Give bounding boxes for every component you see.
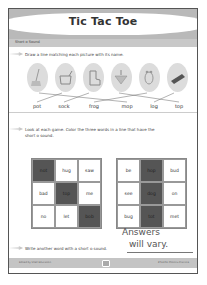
word-label: top <box>175 103 183 109</box>
grid-cell[interactable]: hug <box>55 159 78 182</box>
grid-cell[interactable]: met <box>163 205 186 228</box>
grid-cell[interactable]: see <box>117 182 140 205</box>
arrow-icon <box>9 127 23 131</box>
arrow-icon <box>9 246 23 250</box>
grid-cell[interactable]: not <box>32 159 55 182</box>
grid-cell[interactable]: bob <box>78 205 101 228</box>
book-icon <box>102 260 110 267</box>
tic-tac-toe-grid-1: not hug saw bad top me no let bob <box>31 158 102 229</box>
word-label: sock <box>58 103 69 109</box>
word-label: frog <box>89 103 99 109</box>
grid-cell[interactable]: dog <box>140 182 163 205</box>
word-label: pot <box>33 103 41 109</box>
answer-line-1: Answers <box>122 227 160 237</box>
worksheet-page: Tic Tac Toe Short o Sound Draw a line ma… <box>8 8 198 274</box>
grid-cell[interactable]: be <box>117 159 140 182</box>
grid-cell[interactable]: no <box>32 205 55 228</box>
word-label: log <box>150 103 158 109</box>
word-label: mop <box>121 103 132 109</box>
grid-cell[interactable]: bug <box>117 205 140 228</box>
grid-cell[interactable]: tot <box>140 205 163 228</box>
answer-write-line[interactable] <box>127 252 193 253</box>
grid-cell[interactable]: me <box>78 182 101 205</box>
footer-right-text: #50456 Phonics Practice <box>158 261 189 264</box>
matching-lines <box>9 9 198 109</box>
grid-cell[interactable]: hop <box>140 159 163 182</box>
grid-cell[interactable]: saw <box>78 159 101 182</box>
footer-bar: Edited by Shell Education #50456 Phonics… <box>9 258 197 268</box>
divider <box>9 112 197 113</box>
footer-left-text: Edited by Shell Education <box>19 261 51 264</box>
tic-tac-toe-grid-2: be hop bud see dog on bug tot met <box>116 158 187 229</box>
grid-cell[interactable]: on <box>163 182 186 205</box>
answer-line-2: will vary. <box>129 239 168 249</box>
grid-cell[interactable]: let <box>55 205 78 228</box>
grid-cell[interactable]: bad <box>32 182 55 205</box>
grid-cell[interactable]: top <box>55 182 78 205</box>
grid-cell[interactable]: bud <box>163 159 186 182</box>
